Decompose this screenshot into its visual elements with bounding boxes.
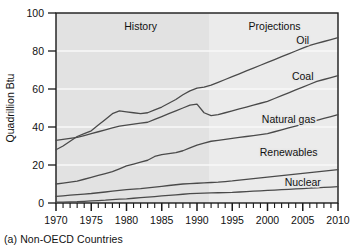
series-label-natural-gas: Natural gas bbox=[262, 113, 316, 125]
history-region-background bbox=[56, 13, 209, 203]
y-tick-label-0: 0 bbox=[38, 197, 44, 209]
x-axis-ticks bbox=[56, 203, 338, 211]
series-label-oil: Oil bbox=[296, 34, 309, 46]
projection-region-background bbox=[209, 13, 338, 203]
x-tick-label-2000: 2000 bbox=[256, 214, 280, 226]
y-axis-title: Quadrillion Btu bbox=[4, 73, 16, 142]
y-axis-ticks bbox=[48, 13, 56, 203]
series-label-nuclear: Nuclear bbox=[285, 176, 322, 188]
figure-caption: (a) Non-OECD Countries bbox=[4, 233, 123, 245]
x-tick-label-2010: 2010 bbox=[326, 214, 350, 226]
series-label-coal: Coal bbox=[292, 70, 314, 82]
x-tick-label-1980: 1980 bbox=[115, 214, 139, 226]
x-tick-label-1990: 1990 bbox=[185, 214, 209, 226]
y-tick-label-60: 60 bbox=[32, 83, 44, 95]
y-tick-label-100: 100 bbox=[26, 7, 44, 19]
y-tick-label-20: 20 bbox=[32, 159, 44, 171]
projections-label: Projections bbox=[249, 20, 301, 32]
energy-consumption-line-chart: 0 20 40 60 80 100 Quadrillion Btu 197019… bbox=[0, 0, 356, 252]
x-axis-tick-labels: 197019751980198519901995200020052010 bbox=[44, 214, 350, 226]
y-tick-label-80: 80 bbox=[32, 45, 44, 57]
x-tick-label-1985: 1985 bbox=[150, 214, 174, 226]
x-tick-label-2005: 2005 bbox=[291, 214, 315, 226]
y-tick-label-40: 40 bbox=[32, 121, 44, 133]
series-label-renewables: Renewables bbox=[260, 146, 318, 158]
x-tick-label-1975: 1975 bbox=[80, 214, 104, 226]
history-label: History bbox=[124, 20, 157, 32]
x-tick-label-1970: 1970 bbox=[44, 214, 68, 226]
figure-non-oecd-countries: 0 20 40 60 80 100 Quadrillion Btu 197019… bbox=[0, 0, 356, 252]
x-tick-label-1995: 1995 bbox=[221, 214, 245, 226]
